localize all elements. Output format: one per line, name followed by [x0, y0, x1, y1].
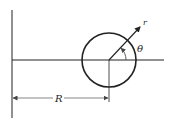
polar-coordinates-diagram: R r θ: [0, 0, 175, 122]
label-theta: θ: [137, 43, 143, 54]
angle-arc-theta: [121, 48, 126, 60]
label-R: R: [54, 93, 63, 104]
label-r: r: [143, 18, 148, 27]
